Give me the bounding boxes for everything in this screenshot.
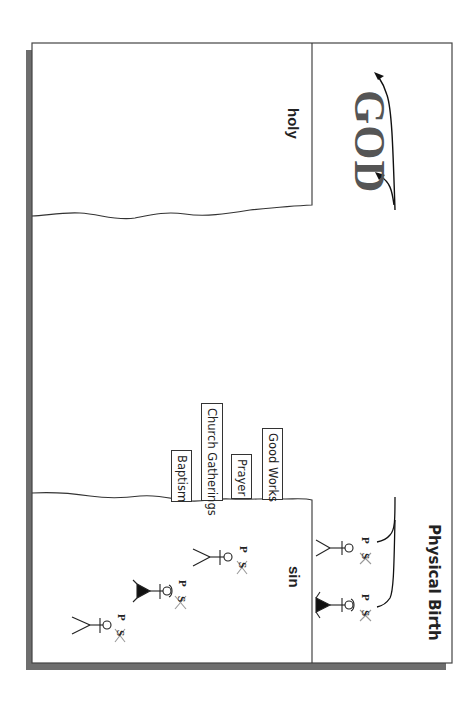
diagram-canvas: GOD holy sin Physical Birth Good Works P…	[0, 0, 476, 707]
bridge-church-gatherings: Church Gatherings	[201, 403, 223, 501]
bridge-baptism: Baptism	[171, 450, 192, 502]
bridge-good-works-label: Good Works	[266, 433, 280, 502]
mark-p-birth-1: P	[360, 537, 372, 544]
mark-s-sin-2: S	[176, 596, 188, 602]
bridge-baptism-label: Baptism	[175, 455, 189, 502]
mark-s-sin-1: S	[237, 562, 249, 568]
bridge-church-gatherings-label: Church Gatherings	[205, 408, 219, 516]
frame-shadow-bottom	[26, 663, 446, 670]
mark-p-birth-2: P	[360, 594, 372, 601]
mark-s-sin-3: S	[115, 630, 127, 636]
mark-p-sin-2: P	[177, 580, 189, 587]
holy-label: holy	[285, 108, 302, 139]
bridge-prayer-label: Prayer	[235, 459, 249, 496]
bridge-good-works: Good Works	[262, 428, 283, 500]
mark-p-sin-3: P	[116, 614, 128, 621]
mark-p-sin-1: P	[238, 546, 250, 553]
bridge-prayer: Prayer	[231, 454, 252, 499]
sin-label: sin	[286, 566, 303, 588]
mark-s-birth-2: S	[360, 610, 372, 616]
diagram-drawing	[0, 0, 476, 707]
mark-s-birth-1: S	[360, 553, 372, 559]
god-title: GOD	[344, 90, 395, 193]
physical-birth-label: Physical Birth	[425, 524, 443, 641]
